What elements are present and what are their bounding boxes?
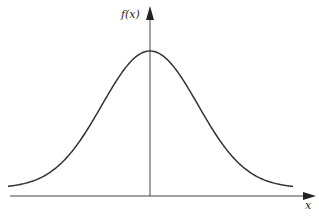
y-axis-arrow-icon (146, 6, 154, 20)
y-axis-label: f(x) (121, 8, 140, 21)
x-axis (10, 192, 316, 200)
chart-canvas (0, 0, 319, 216)
x-axis-label: x (305, 199, 311, 212)
y-axis (146, 6, 154, 196)
